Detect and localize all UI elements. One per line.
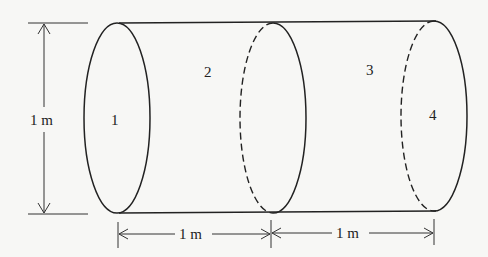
length-right-label: 1 m — [336, 225, 359, 241]
middle-section-visible-arc — [273, 23, 306, 213]
length-left-label: 1 m — [179, 226, 202, 242]
section-label-1: 1 — [111, 112, 119, 128]
section-label-4: 4 — [429, 107, 437, 123]
right-end-visible-arc — [434, 21, 467, 211]
cylinder-top-edge — [119, 21, 436, 23]
section-label-2: 2 — [204, 64, 212, 80]
section-label-3: 3 — [366, 62, 374, 78]
middle-section-hidden-arc — [240, 23, 273, 213]
cylinder-diagram: 1 m 1 m 1 m 1 2 3 4 — [0, 0, 488, 257]
height-label: 1 m — [30, 112, 53, 128]
